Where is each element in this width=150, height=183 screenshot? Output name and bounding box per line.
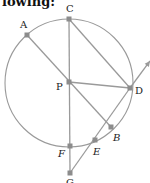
point-d — [128, 86, 133, 91]
point-p — [67, 80, 72, 85]
label-e: E — [92, 146, 101, 157]
label-a: A — [19, 19, 28, 30]
label-d: D — [135, 85, 143, 96]
segment-cg — [69, 19, 70, 173]
point-f — [68, 144, 73, 149]
segment-cd — [69, 19, 130, 88]
segment-pd — [69, 82, 130, 88]
point-c — [67, 17, 72, 22]
point-a — [25, 33, 30, 38]
circle-geometry-diagram: ACPDBEFG — [0, 0, 150, 183]
point-b — [109, 125, 114, 130]
segment-gd — [70, 88, 130, 173]
label-b: B — [112, 132, 120, 143]
point-e — [93, 138, 98, 143]
label-p: P — [56, 81, 63, 92]
label-g: G — [66, 177, 74, 183]
label-f: F — [57, 148, 66, 159]
point-g — [68, 171, 73, 176]
label-c: C — [66, 3, 74, 14]
